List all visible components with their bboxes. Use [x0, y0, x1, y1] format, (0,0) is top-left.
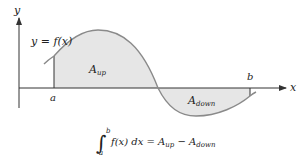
svg-text:A: A [88, 63, 97, 76]
integral-diagram: y x y = f(x) a b A up A down ∫ b a f(x) … [0, 0, 308, 160]
svg-text:A: A [187, 94, 196, 107]
x-axis-label: x [290, 81, 297, 94]
y-axis-label: y [13, 4, 21, 17]
svg-text:down: down [196, 100, 216, 108]
bound-b-label: b [247, 71, 253, 82]
integrand: f(x) dx = Aup − Adown [110, 136, 216, 149]
svg-text:up: up [97, 69, 107, 77]
integral-lower-limit: a [99, 149, 103, 157]
integral-formula: ∫ b a f(x) dx = Aup − Adown [96, 127, 216, 157]
curve-label: y = f(x) [30, 35, 72, 48]
bound-a-label: a [50, 92, 56, 103]
integral-upper-limit: b [106, 127, 111, 135]
